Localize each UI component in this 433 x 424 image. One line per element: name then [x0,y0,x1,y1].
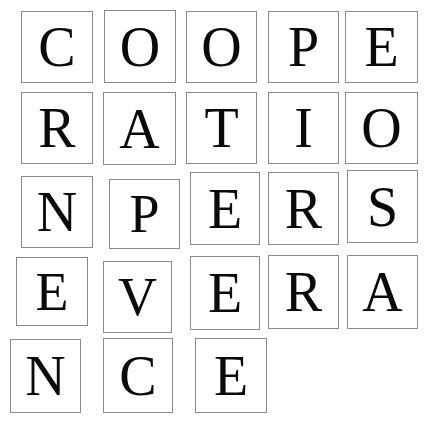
tile-letter: E [208,181,242,237]
letter-tile: N [10,339,81,413]
letter-tile: I [268,92,339,164]
letter-tile: E [345,11,418,83]
tile-letter: E [214,348,248,404]
letter-tile: O [186,11,257,83]
letter-tile: O [104,10,176,83]
letter-tile: V [103,261,172,333]
tile-letter: O [361,100,401,156]
letter-tile: A [347,255,418,329]
tile-letter: C [38,19,75,75]
letter-tile: R [21,92,93,164]
letter-tile: C [21,11,93,83]
tile-letter: S [367,179,398,235]
tile-letter: R [285,181,322,237]
letter-tile: S [347,170,418,243]
tile-letter: E [208,265,242,321]
tile-letter: N [37,184,77,240]
letter-tile: P [109,179,180,249]
tile-letter: T [204,100,238,156]
tile-letter: P [288,19,319,75]
tile-letter: P [129,187,159,241]
tile-letter: R [285,264,322,320]
letter-tile: N [21,176,93,248]
tile-letter: V [118,270,157,324]
tile-letter: A [119,101,159,157]
tile-letter: N [25,348,65,404]
letter-tile: R [268,172,339,245]
letter-tile: E [195,338,267,413]
letter-tile: A [103,92,176,165]
tile-letter: O [120,19,160,75]
letter-tile: C [103,338,173,413]
letter-tile: T [186,92,257,164]
tile-letter: C [119,348,156,404]
letter-tile-grid: COOPERATIONPERSEVERANCE [0,0,433,424]
letter-tile: R [268,255,339,329]
letter-tile: P [268,11,339,83]
tile-letter: E [364,19,398,75]
tile-letter: A [362,264,402,320]
letter-tile: O [345,92,418,164]
tile-letter: I [294,100,313,156]
letter-tile: E [190,256,260,330]
tile-letter: E [36,265,69,319]
tile-letter: R [38,100,75,156]
letter-tile: E [16,257,88,326]
letter-tile: E [190,172,260,245]
tile-letter: O [201,19,241,75]
